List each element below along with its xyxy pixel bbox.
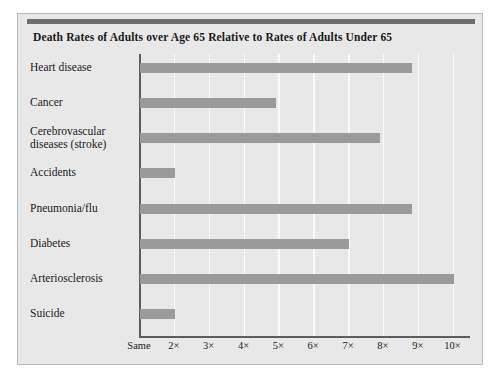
bar [140,98,276,108]
category-label-line: Arteriosclerosis [30,272,133,285]
chart-panel: Death Rates of Adults over Age 65 Relati… [17,13,483,365]
x-tick-label: 5× [273,340,284,351]
category-label-line: Suicide [30,307,133,320]
category-label: Cerebrovasculardiseases (stroke) [30,125,133,151]
category-label: Heart disease [30,61,133,74]
category-label-line: Cerebrovascular [30,125,133,138]
category-label-line: diseases (stroke) [30,138,133,151]
category-label-line: Cancer [30,96,133,109]
x-tick-label: 2× [168,340,179,351]
x-tick-label: 7× [342,340,353,351]
bar [140,204,412,214]
category-label-line: Heart disease [30,61,133,74]
category-label-line: Accidents [30,166,133,179]
bar [140,239,349,249]
category-label: Suicide [30,307,133,320]
x-tick-label: Same [127,340,150,351]
category-label: Pneumonia/flu [30,202,133,215]
x-tick-label: 6× [308,340,319,351]
bar [140,133,380,143]
bar-series [139,54,470,336]
x-axis-line [139,336,470,338]
category-label-line: Diabetes [30,237,133,250]
x-tick-label: 10× [444,340,460,351]
category-label: Arteriosclerosis [30,272,133,285]
title-accent-rule [27,19,475,24]
x-tick-label: 3× [203,340,214,351]
x-tick-label: 8× [377,340,388,351]
category-label: Cancer [30,96,133,109]
x-axis-tick-labels: Same2×3×4×5×6×7×8×9×10× [139,340,479,360]
x-tick-label: 9× [412,340,423,351]
category-label: Diabetes [30,237,133,250]
bar [140,168,175,178]
plot-area [139,54,470,336]
chart-title: Death Rates of Adults over Age 65 Relati… [33,31,473,43]
category-label-line: Pneumonia/flu [30,202,133,215]
bar [140,63,412,73]
category-axis-labels: Heart diseaseCancerCerebrovasculardiseas… [18,54,139,336]
category-label: Accidents [30,166,133,179]
bar [140,274,454,284]
x-tick-label: 4× [238,340,249,351]
bar [140,309,175,319]
